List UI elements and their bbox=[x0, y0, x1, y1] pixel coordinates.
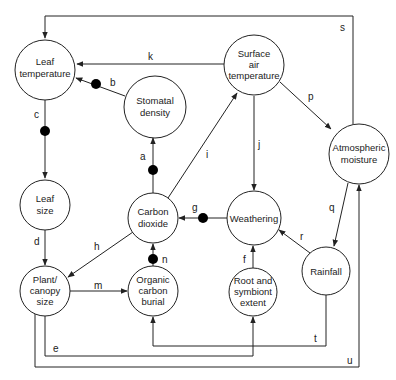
edge-s bbox=[45, 16, 353, 124]
edge-p bbox=[280, 82, 331, 129]
edge-label-h: h bbox=[94, 241, 100, 252]
node-label: Rainfall bbox=[310, 266, 342, 277]
edge-label-u: u bbox=[347, 355, 353, 366]
node-label: carbon bbox=[138, 285, 167, 296]
edge-label-p: p bbox=[308, 91, 314, 102]
node-label: density bbox=[140, 107, 170, 118]
edge-label-q: q bbox=[329, 202, 335, 213]
edge-label-s: s bbox=[340, 22, 345, 33]
node-label: burial bbox=[141, 296, 164, 307]
edge-label-c: c bbox=[34, 109, 39, 120]
node-atmospheric-moisture: Atmospheric moisture bbox=[329, 124, 389, 184]
edge-label-f: f bbox=[243, 254, 246, 265]
edge-b bbox=[76, 78, 125, 96]
node-label: canopy bbox=[30, 285, 61, 296]
node-label: symbiont bbox=[234, 286, 272, 297]
node-label: dioxide bbox=[138, 218, 168, 229]
node-leaf-size: Leaf size bbox=[20, 180, 70, 230]
node-rainfall: Rainfall bbox=[302, 247, 350, 295]
node-label: Carbon bbox=[137, 206, 168, 217]
negative-dot-a bbox=[148, 165, 158, 175]
node-label: Organic bbox=[136, 274, 170, 285]
node-label: Leaf bbox=[36, 193, 55, 204]
edge-label-g: g bbox=[192, 202, 198, 213]
node-label: extent bbox=[240, 297, 266, 308]
edge-label-j: j bbox=[257, 139, 260, 150]
node-label: temperature bbox=[19, 68, 70, 79]
node-leaf-temperature: Leaf temperature bbox=[15, 40, 75, 100]
node-label: Plant/ bbox=[33, 274, 58, 285]
node-surface-air-temperature: Surface air temperature bbox=[224, 35, 284, 95]
node-label: size bbox=[37, 296, 54, 307]
edge-label-k: k bbox=[148, 51, 154, 62]
negative-dot-n bbox=[148, 254, 158, 264]
node-label: Stomatal bbox=[136, 95, 174, 106]
node-label: Atmospheric bbox=[333, 142, 386, 153]
node-carbon-dioxide: Carbon dioxide bbox=[128, 193, 178, 243]
edge-e bbox=[45, 316, 253, 356]
edge-q bbox=[334, 183, 348, 246]
node-label: moisture bbox=[341, 154, 377, 165]
node-label: size bbox=[37, 205, 54, 216]
edge-label-d: d bbox=[34, 236, 40, 247]
node-label: air bbox=[249, 59, 260, 70]
negative-dot-c bbox=[40, 126, 50, 136]
negative-dot-g bbox=[198, 213, 208, 223]
node-root-symbiont-extent: Root and symbiont extent bbox=[229, 268, 277, 316]
negative-dot-b bbox=[91, 79, 101, 89]
node-label: temperature bbox=[228, 70, 279, 81]
edge-label-n: n bbox=[162, 254, 168, 265]
node-label: Surface bbox=[238, 48, 271, 59]
edge-label-e: e bbox=[53, 343, 59, 354]
edge-label-i: i bbox=[206, 149, 208, 160]
edge-label-r: r bbox=[300, 231, 304, 242]
node-label: Root and bbox=[234, 275, 273, 286]
node-plant-canopy-size: Plant/ canopy size bbox=[20, 266, 70, 316]
edge-label-t: t bbox=[314, 333, 317, 344]
edge-label-b: b bbox=[110, 77, 116, 88]
node-label: Weathering bbox=[230, 213, 278, 224]
node-organic-carbon-burial: Organic carbon burial bbox=[128, 266, 178, 316]
node-label: Leaf bbox=[36, 56, 55, 67]
node-stomatal-density: Stomatal density bbox=[124, 76, 186, 138]
edge-r bbox=[279, 230, 310, 253]
node-weathering: Weathering bbox=[227, 191, 281, 245]
edge-label-a: a bbox=[140, 151, 146, 162]
edge-h bbox=[68, 232, 133, 277]
edge-label-m: m bbox=[94, 280, 102, 291]
causal-loop-diagram: s k b c a i j p g q r f d h m n t bbox=[0, 0, 396, 380]
